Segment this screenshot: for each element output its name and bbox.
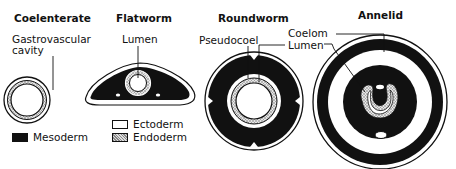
legend-mesoderm-label: Mesoderm [33, 131, 88, 143]
annelid-cross-section [313, 34, 447, 169]
body-plans-diagram [0, 0, 456, 169]
legend-endoderm-label: Endoderm [133, 131, 187, 143]
legend-mesoderm: Mesoderm [12, 131, 88, 143]
legend-endoderm: Endoderm [112, 131, 187, 143]
label-pseudocoel: Pseudocoel [199, 35, 258, 46]
coelenterate-cross-section [4, 56, 53, 123]
label-lumen: Lumen [288, 40, 324, 51]
legend-ectoderm-label: Ectoderm [133, 118, 183, 130]
title-roundworm: Roundworm [218, 13, 289, 24]
flatworm-cross-section [86, 46, 195, 105]
ectoderm-swatch [112, 120, 128, 129]
legend-ectoderm: Ectoderm [112, 118, 183, 130]
title-coelenterate: Coelenterate [14, 13, 91, 24]
label-coelom: Coelom [288, 28, 328, 39]
roundworm-cross-section [205, 45, 303, 150]
label-flatworm-lumen: Lumen [122, 34, 158, 45]
endoderm-swatch [112, 133, 128, 142]
title-annelid: Annelid [358, 10, 403, 21]
title-flatworm: Flatworm [116, 13, 172, 24]
mesoderm-swatch [12, 133, 28, 142]
label-cavity: cavity [12, 45, 44, 56]
